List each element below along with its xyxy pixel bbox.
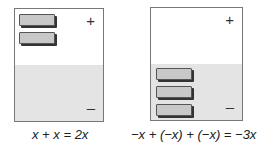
left-equation-caption: x + x = 2x: [32, 127, 88, 142]
right-equation-caption: −x + (−x) + (−x) = −3x: [131, 127, 256, 142]
left-algebra-mat: + –: [14, 8, 104, 122]
negative-x-tile: [156, 68, 192, 80]
x-tile: [19, 32, 55, 44]
minus-sign: –: [226, 99, 234, 114]
plus-sign: +: [86, 13, 95, 28]
x-tile: [19, 14, 55, 26]
minus-sign: –: [87, 100, 95, 115]
negative-x-tile: [156, 104, 192, 116]
negative-region: –: [151, 64, 242, 120]
plus-sign: +: [225, 12, 234, 27]
negative-x-tile: [156, 86, 192, 98]
positive-region: +: [15, 9, 103, 67]
negative-region: –: [15, 65, 103, 121]
positive-region: +: [151, 8, 242, 66]
right-algebra-mat: + –: [150, 7, 243, 121]
